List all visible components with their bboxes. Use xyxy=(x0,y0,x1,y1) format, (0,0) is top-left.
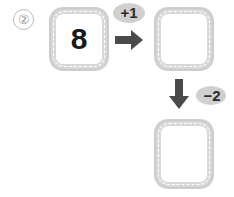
operation-badge-minus-two: −2 xyxy=(196,86,226,105)
number-box-output[interactable] xyxy=(155,120,213,188)
number-box-middle[interactable] xyxy=(155,8,213,70)
arrow-right-icon xyxy=(114,29,144,51)
worksheet-canvas: ② 8 +1 −2 xyxy=(0,0,234,197)
number-box-input-value: 8 xyxy=(56,22,102,56)
operation-badge-plus-one: +1 xyxy=(113,3,145,23)
number-box-input[interactable]: 8 xyxy=(50,8,108,70)
arrow-down-icon xyxy=(168,78,190,110)
problem-number: ② xyxy=(13,9,34,30)
